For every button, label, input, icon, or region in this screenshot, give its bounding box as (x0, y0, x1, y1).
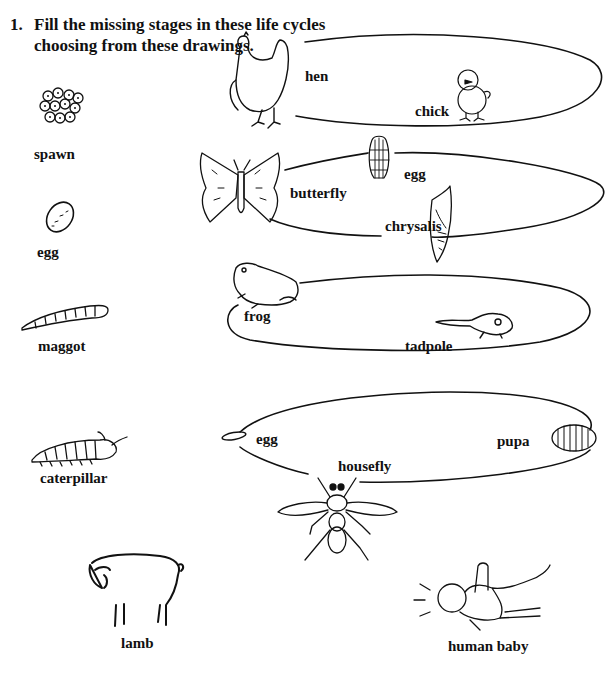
choice-label-lamb: lamb (121, 635, 154, 652)
choice-label-egg: egg (37, 244, 59, 261)
stage-label-fly-egg: egg (256, 431, 278, 448)
choice-label-caterpillar: caterpillar (40, 470, 107, 487)
choice-label-human-baby: human baby (448, 638, 528, 655)
stage-label-hen: hen (305, 68, 328, 85)
egg-icon (41, 197, 79, 237)
caterpillar-icon (32, 432, 127, 466)
stage-label-housefly: housefly (338, 458, 391, 475)
stage-label-frog: frog (244, 308, 270, 325)
tadpole-icon (436, 313, 512, 338)
butterfly-egg-icon (369, 136, 389, 178)
pupa-icon (552, 425, 596, 451)
housefly-icon (278, 478, 397, 560)
stage-label-butterfly: butterfly (290, 185, 347, 202)
hen-icon (230, 32, 288, 128)
cycle-oval-housefly (240, 392, 591, 482)
frogspawn-icon (40, 88, 83, 123)
stage-label-chick: chick (415, 103, 449, 120)
maggot-icon (22, 305, 108, 330)
fly-egg-icon (222, 430, 247, 441)
stage-label-chrysalis: chrysalis (385, 218, 442, 235)
human-baby-icon (414, 563, 550, 630)
choice-label-spawn: spawn (34, 146, 75, 163)
worksheet-drawings (0, 0, 609, 676)
lamb-icon (90, 554, 184, 626)
chick-icon (458, 70, 490, 121)
stage-label-tadpole: tadpole (405, 338, 453, 355)
stage-label-pupa: pupa (497, 433, 530, 450)
choice-label-maggot: maggot (38, 338, 86, 355)
butterfly-icon (200, 153, 279, 222)
frog-icon (234, 263, 298, 308)
stage-label-butterfly-egg: egg (404, 166, 426, 183)
